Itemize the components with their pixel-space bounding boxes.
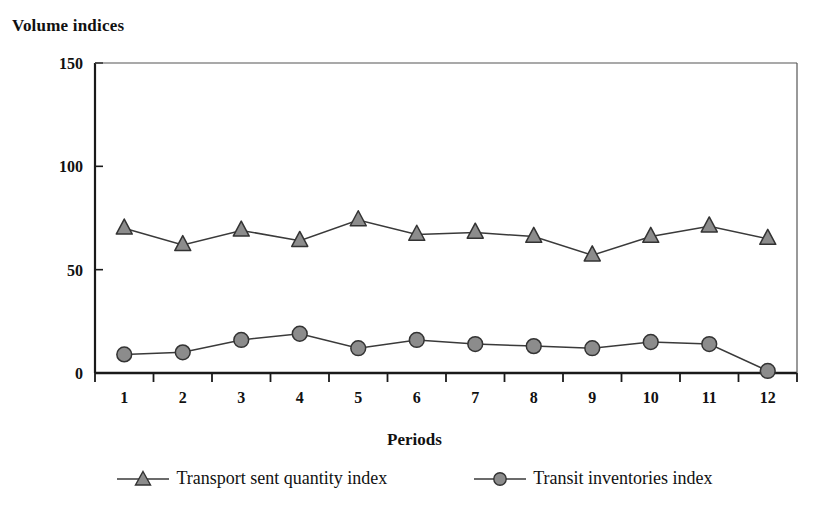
- y-tick-labels: 050100150: [59, 55, 83, 382]
- legend-label-transport: Transport sent quantity index: [176, 468, 387, 489]
- plot-frame: [95, 63, 797, 373]
- circle-marker-icon: [473, 469, 527, 489]
- svg-text:5: 5: [354, 389, 362, 406]
- svg-text:3: 3: [237, 389, 245, 406]
- svg-text:100: 100: [59, 158, 83, 175]
- x-axis-title: Periods: [0, 430, 829, 450]
- svg-text:11: 11: [702, 389, 717, 406]
- svg-text:150: 150: [59, 55, 83, 72]
- triangle-marker-icon: [116, 469, 170, 489]
- legend-entry-transport: Transport sent quantity index: [116, 468, 387, 489]
- legend-label-transit: Transit inventories index: [533, 468, 712, 489]
- x-tick-labels: 123456789101112: [120, 389, 776, 406]
- svg-text:4: 4: [296, 389, 304, 406]
- svg-text:1: 1: [120, 389, 128, 406]
- svg-text:2: 2: [179, 389, 187, 406]
- svg-text:0: 0: [75, 365, 83, 382]
- volume-indices-chart: Volume indices 050100150 123456789101112…: [0, 0, 829, 516]
- x-axis-ticks: [95, 373, 797, 382]
- svg-text:50: 50: [67, 262, 83, 279]
- svg-text:10: 10: [643, 389, 659, 406]
- chart-legend: Transport sent quantity index Transit in…: [0, 468, 829, 489]
- svg-text:12: 12: [760, 389, 776, 406]
- y-axis-ticks: [95, 63, 103, 373]
- svg-text:7: 7: [471, 389, 479, 406]
- plot-area: 050100150 123456789101112: [0, 0, 829, 430]
- data-series-group: [116, 211, 776, 379]
- svg-text:6: 6: [413, 389, 421, 406]
- svg-text:8: 8: [530, 389, 538, 406]
- legend-entry-transit: Transit inventories index: [473, 468, 712, 489]
- svg-text:9: 9: [588, 389, 596, 406]
